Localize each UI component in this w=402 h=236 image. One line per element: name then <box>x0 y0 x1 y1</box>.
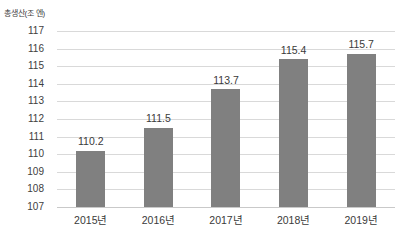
y-axis-tick-label: 113 <box>0 96 44 106</box>
y-axis-tick-label: 112 <box>0 114 44 124</box>
bar-chart: 총생산(조 엔) 1171161151141131121111101091081… <box>0 0 402 236</box>
bar[interactable] <box>211 89 240 207</box>
bar-slot: 113.7 <box>192 31 260 207</box>
x-axis-category-label: 2017년 <box>192 212 260 227</box>
bar[interactable] <box>144 128 173 207</box>
y-axis-tick-label: 109 <box>0 167 44 177</box>
y-axis-tick-label: 111 <box>0 132 44 142</box>
y-axis-tick-label: 114 <box>0 79 44 89</box>
y-axis-tick-label: 117 <box>0 26 44 36</box>
bar-value-label: 115.7 <box>348 39 374 50</box>
bar-slot: 110.2 <box>57 31 125 207</box>
chart-axis-title: 총생산(조 엔) <box>4 7 45 18</box>
bar-value-label: 115.4 <box>281 45 307 56</box>
bar-slot: 115.4 <box>260 31 328 207</box>
bar[interactable] <box>76 151 105 207</box>
x-axis-category-label: 2016년 <box>125 212 193 227</box>
bar-slot: 111.5 <box>125 31 193 207</box>
y-axis-tick-label: 108 <box>0 184 44 194</box>
x-axis-category-label: 2018년 <box>260 212 328 227</box>
bar[interactable] <box>347 54 376 207</box>
bar[interactable] <box>279 59 308 207</box>
gridline <box>57 207 395 208</box>
y-axis-tick-label: 107 <box>0 202 44 212</box>
bar-value-label: 111.5 <box>146 113 171 124</box>
bar-value-label: 110.2 <box>78 136 104 147</box>
x-axis-category-label: 2019년 <box>327 212 395 227</box>
bar-value-label: 113.7 <box>213 75 239 86</box>
y-axis-tick-label: 115 <box>0 61 44 71</box>
bar-series: 110.2111.5113.7115.4115.7 <box>57 31 395 207</box>
x-axis-labels: 2015년2016년2017년2018년2019년 <box>57 212 395 227</box>
y-axis-tick-label: 116 <box>0 44 44 54</box>
bar-slot: 115.7 <box>327 31 395 207</box>
x-axis-category-label: 2015년 <box>57 212 125 227</box>
y-axis-tick-label: 110 <box>0 149 44 159</box>
